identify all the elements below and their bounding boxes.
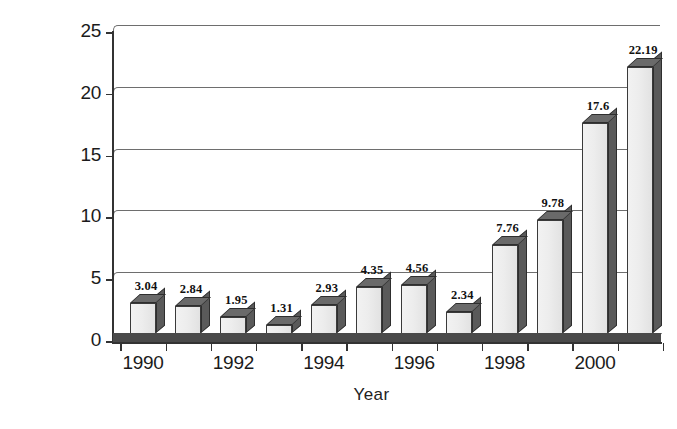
bar-value-label: 1.31 — [270, 301, 293, 316]
x-axis-tick — [256, 343, 257, 351]
bar-value-label: 1.95 — [225, 293, 248, 308]
bar-value-label: 2.34 — [451, 288, 474, 303]
x-axis-tick-label: 1996 — [379, 352, 449, 374]
x-axis-tick — [663, 343, 664, 351]
gridline — [118, 87, 660, 88]
x-axis-tick-label: 2000 — [560, 352, 630, 374]
bar: 7.76 — [492, 245, 518, 341]
bar-chart: Incidence rate per 1000 births 051015202… — [0, 0, 677, 429]
bar-front-face — [627, 67, 653, 341]
x-axis-tick — [482, 343, 483, 351]
gridline-riser — [113, 25, 120, 33]
y-axis-tick-label: 25 — [65, 20, 101, 42]
x-axis-tick — [527, 343, 528, 351]
y-axis-tick-label: 5 — [65, 267, 101, 289]
bar-side-face — [518, 230, 527, 333]
bar-value-label: 2.93 — [315, 281, 338, 296]
y-axis-tick-label: 0 — [65, 329, 101, 351]
bar-front-face — [582, 123, 608, 341]
gridline — [118, 25, 660, 26]
bar-side-face — [653, 51, 662, 333]
x-axis-line — [112, 342, 662, 344]
gridline-riser — [113, 87, 120, 95]
plot-area: 0510152025 3.042.841.951.312.934.354.562… — [0, 0, 677, 429]
gridline — [118, 210, 660, 211]
y-axis-tick-label: 20 — [65, 82, 101, 104]
bar-value-label: 4.56 — [406, 261, 429, 276]
x-axis-tick — [392, 343, 393, 351]
bar: 9.78 — [537, 220, 563, 341]
x-axis-tick-label: 1998 — [470, 352, 540, 374]
bar-value-label: 22.19 — [629, 43, 658, 58]
x-axis-tick — [618, 343, 619, 351]
bar-side-face — [563, 205, 572, 333]
y-axis-tick-label: 15 — [65, 144, 101, 166]
bar-value-label: 17.6 — [587, 99, 610, 114]
bar-value-label: 3.04 — [135, 279, 158, 294]
gridline-riser — [113, 272, 120, 280]
x-axis-tick — [572, 343, 573, 351]
bar-side-face — [246, 301, 255, 333]
bar-value-label: 9.78 — [541, 196, 564, 211]
x-axis-tick — [120, 343, 121, 351]
bar: 22.19 — [627, 67, 653, 341]
y-axis-line — [112, 31, 114, 342]
x-axis-title: Year — [0, 385, 677, 405]
x-axis-tick-label: 1990 — [108, 352, 178, 374]
chart-floor-edge — [655, 333, 662, 342]
bar-value-label: 2.84 — [180, 282, 203, 297]
x-axis-tick — [166, 343, 167, 351]
gridline — [118, 149, 660, 150]
bar-value-label: 7.76 — [496, 221, 519, 236]
gridline-riser — [113, 210, 120, 218]
x-axis-tick — [301, 343, 302, 351]
gridline-riser — [113, 149, 120, 157]
x-axis-tick-label: 1994 — [289, 352, 359, 374]
chart-floor — [113, 333, 661, 342]
x-axis-tick — [346, 343, 347, 351]
bar-front-face — [537, 220, 563, 341]
bar-value-label: 4.35 — [361, 263, 384, 278]
x-axis-tick — [437, 343, 438, 351]
x-axis-tick-label: 1992 — [198, 352, 268, 374]
y-axis-tick-label: 10 — [65, 205, 101, 227]
bar-front-face — [492, 245, 518, 341]
bar-side-face — [608, 108, 617, 333]
x-axis-title-text: Year — [354, 385, 390, 404]
x-axis-tick — [211, 343, 212, 351]
bar: 17.6 — [582, 123, 608, 341]
